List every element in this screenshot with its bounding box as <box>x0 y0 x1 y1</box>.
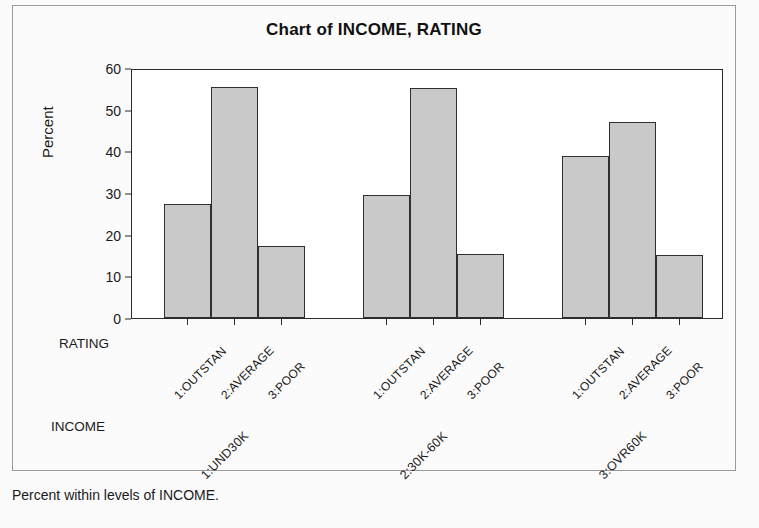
bar <box>258 246 305 318</box>
y-axis-tick-label: 30 <box>105 186 121 202</box>
income-group-label: 1:UND30K <box>198 429 251 482</box>
y-axis-tick-label: 50 <box>105 103 121 119</box>
x-axis-tick-mark <box>632 319 633 325</box>
bar <box>562 156 609 318</box>
income-group-label: 2:30K-60K <box>397 429 450 482</box>
rating-category-label: 3:POOR <box>265 359 308 402</box>
income-axis-name: INCOME <box>51 419 105 434</box>
rating-category-label: 3:POOR <box>663 359 706 402</box>
y-axis: 0102030405060 <box>93 69 131 319</box>
bar <box>457 254 504 318</box>
bar <box>609 122 656 318</box>
y-axis-tick-label: 60 <box>105 61 121 77</box>
plot-area <box>131 69 723 319</box>
x-axis-tick-mark <box>187 319 188 325</box>
y-axis-tick-label: 10 <box>105 269 121 285</box>
rating-category-label: 3:POOR <box>464 359 507 402</box>
x-axis-tick-mark <box>679 319 680 325</box>
page-title: Chart of INCOME, RATING <box>13 20 735 40</box>
bar <box>164 204 211 318</box>
rating-axis-name: RATING <box>59 336 109 351</box>
bar <box>211 87 258 318</box>
income-group-label: 3:OVR60K <box>596 429 649 482</box>
x-axis-tick-mark <box>585 319 586 325</box>
x-axis-tick-mark <box>386 319 387 325</box>
y-axis-tick-label: 20 <box>105 228 121 244</box>
x-axis-tick-mark <box>234 319 235 325</box>
bar <box>410 88 457 318</box>
x-axis-tick-mark <box>281 319 282 325</box>
chart-footnote: Percent within levels of INCOME. <box>12 487 219 503</box>
y-axis-tick-label: 0 <box>113 311 121 327</box>
x-axis-tick-mark <box>480 319 481 325</box>
bar <box>363 195 410 318</box>
y-axis-tick-label: 40 <box>105 144 121 160</box>
figure-frame: Chart of INCOME, RATING Percent 01020304… <box>12 5 736 471</box>
x-axis-tick-mark <box>433 319 434 325</box>
y-axis-title: Percent <box>39 106 56 158</box>
bar <box>656 255 703 318</box>
chart-page: Chart of INCOME, RATING Percent 01020304… <box>0 0 759 528</box>
